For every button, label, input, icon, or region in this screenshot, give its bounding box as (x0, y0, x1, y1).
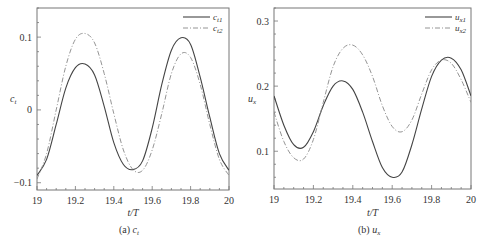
series-line-c-t1 (37, 38, 229, 176)
x-tick-label: 19.4 (105, 195, 123, 206)
y-tick-label: −0.1 (14, 177, 32, 188)
x-tick-label: 19.2 (67, 195, 85, 206)
legend: ct1ct2 (183, 12, 223, 35)
x-tick-label: 19.8 (423, 194, 441, 205)
x-tick-label: 19.6 (143, 195, 161, 206)
y-tick-label: 0 (27, 104, 32, 115)
x-axis: 1919.219.419.619.820 (32, 186, 234, 206)
series-line-c-t2 (37, 33, 229, 179)
x-tick-label: 20 (224, 195, 234, 206)
y-tick-label: 0.1 (257, 146, 270, 157)
x-tick-label: 19.8 (182, 195, 200, 206)
y-axis-label: ux (248, 93, 257, 106)
x-tick-label: 19.2 (305, 194, 323, 205)
x-axis-label: t/T (367, 207, 380, 218)
x-tick-label: 19.6 (383, 194, 401, 205)
x-tick-label: 19 (32, 195, 42, 206)
y-tick-label: 0.2 (257, 81, 270, 92)
legend: ux1ux2 (425, 12, 467, 35)
panel-caption: (b) ux (358, 224, 381, 237)
x-axis: 1919.219.419.619.820 (269, 185, 476, 205)
y-axis-label: ct (10, 93, 17, 106)
y-tick-label: 0.3 (257, 16, 270, 27)
y-tick-label: 0.1 (20, 32, 33, 43)
legend-label: ux2 (455, 23, 467, 35)
plot-frame (37, 8, 229, 190)
series-line-u-x2 (274, 45, 471, 161)
x-axis-label: t/T (127, 207, 140, 218)
y-axis: 0.10.20.3 (257, 8, 279, 177)
x-tick-label: 19.4 (344, 194, 362, 205)
chart-panel-b: 1919.219.419.619.8200.10.20.3t/Tux(b) ux… (248, 8, 476, 237)
panel-caption: (a) ct (119, 224, 140, 237)
legend-label: ct2 (213, 23, 223, 35)
x-tick-label: 20 (466, 194, 476, 205)
plot-frame (274, 8, 471, 189)
figure-canvas: 1919.219.419.619.820−0.100.1t/Tct(a) ctc… (0, 0, 480, 240)
chart-panel-a: 1919.219.419.619.820−0.100.1t/Tct(a) ctc… (10, 8, 234, 237)
x-tick-label: 19 (269, 194, 279, 205)
